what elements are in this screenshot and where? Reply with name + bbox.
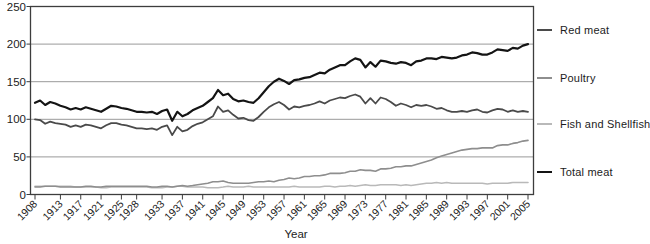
- x-tick-label: 1921: [80, 197, 105, 222]
- x-tick-label: 1945: [202, 197, 227, 222]
- x-tick-label: 2005: [507, 197, 532, 222]
- x-tick-label: 2001: [487, 197, 512, 222]
- legend-label-red-meat: Red meat: [560, 24, 609, 36]
- legend-item-poultry: Poultry: [537, 71, 596, 84]
- x-tick-label: 1997: [467, 197, 492, 222]
- legend-item-red-meat: Red meat: [537, 23, 609, 36]
- y-tick-label: 250: [7, 1, 26, 13]
- x-tick-label: 1941: [182, 197, 207, 222]
- x-axis-title: Year: [284, 228, 307, 240]
- legend-label-total-meat: Total meat: [560, 166, 613, 178]
- x-tick-label: 1908: [14, 197, 39, 222]
- x-tick-label: 1937: [162, 197, 187, 222]
- legend-label-fish-and-shellfish: Fish and Shellfish: [560, 118, 650, 130]
- plot-border: [31, 7, 534, 195]
- x-tick-label: 1965: [304, 197, 329, 222]
- y-tick-label: 0: [20, 189, 26, 201]
- x-tick-label: 1933: [141, 197, 166, 222]
- y-tick-label: 50: [13, 151, 26, 163]
- series-line-total-meat: [35, 44, 528, 121]
- x-tick-label: 1977: [365, 197, 390, 222]
- legend-item-total-meat: Total meat: [537, 165, 613, 178]
- legend-label-poultry: Poultry: [560, 72, 596, 84]
- x-tick-label: 1989: [426, 197, 451, 222]
- legend-line-sample-total-meat: [537, 171, 552, 173]
- series-line-poultry: [35, 140, 528, 187]
- x-tick-label: 1961: [284, 197, 309, 222]
- x-tick-label: 1953: [243, 197, 268, 222]
- legend-line-sample-fish-and-shellfish: [537, 123, 552, 125]
- legend-line-sample-poultry: [537, 77, 552, 79]
- y-tick-label: 100: [7, 113, 26, 125]
- x-tick-label: 1973: [345, 197, 370, 222]
- x-tick-label: 1993: [446, 197, 471, 222]
- legend-item-fish-and-shellfish: Fish and Shellfish: [537, 117, 650, 130]
- legend-line-sample-red-meat: [537, 29, 552, 31]
- legend: Red meat Poultry Fish and Shellfish Tota…: [537, 0, 647, 244]
- x-tick-label: 1969: [324, 197, 349, 222]
- y-tick-label: 150: [7, 76, 26, 88]
- y-tick-label: 200: [7, 38, 26, 50]
- x-tick-label: 1949: [223, 197, 248, 222]
- x-tick-label: 1985: [406, 197, 431, 222]
- x-tick-label: 1981: [385, 197, 410, 222]
- x-tick-label: 1917: [60, 197, 85, 222]
- series-line-red-meat: [35, 95, 528, 136]
- x-tick-label: 1957: [263, 197, 288, 222]
- x-tick-label: 1913: [40, 197, 65, 222]
